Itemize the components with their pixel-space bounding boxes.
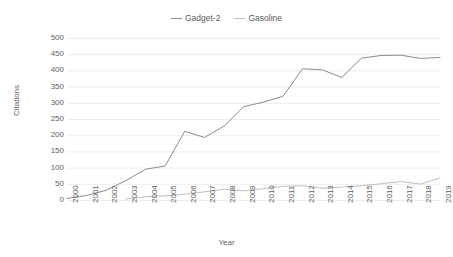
x-axis-tick-labels: 2000200120022003200420052006200720082009…: [0, 0, 453, 257]
x-tick-label-2013: 2013: [326, 167, 335, 203]
x-tick-label-2018: 2018: [424, 167, 433, 203]
x-tick-label-2001: 2001: [91, 167, 100, 203]
x-tick-label-2004: 2004: [150, 167, 159, 203]
x-tick-label-2007: 2007: [208, 167, 217, 203]
x-tick-label-2019: 2019: [444, 167, 453, 203]
x-tick-label-2014: 2014: [346, 167, 355, 203]
x-tick-label-2017: 2017: [405, 167, 414, 203]
x-tick-label-2015: 2015: [365, 167, 374, 203]
x-tick-label-2000: 2000: [71, 167, 80, 203]
x-tick-label-2008: 2008: [228, 167, 237, 203]
x-tick-label-2003: 2003: [130, 167, 139, 203]
x-tick-label-2012: 2012: [307, 167, 316, 203]
x-tick-label-2011: 2011: [287, 167, 296, 203]
chart-container: Gadget-2 Gasoline 5004504003503002502001…: [0, 0, 453, 257]
x-tick-label-2010: 2010: [267, 167, 276, 203]
x-tick-label-2009: 2009: [248, 167, 257, 203]
x-tick-label-2005: 2005: [169, 167, 178, 203]
x-tick-label-2002: 2002: [110, 167, 119, 203]
x-axis-title: Year: [0, 238, 453, 247]
x-tick-label-2006: 2006: [189, 167, 198, 203]
x-tick-label-2016: 2016: [385, 167, 394, 203]
